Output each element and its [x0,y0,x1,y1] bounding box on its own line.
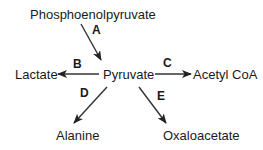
node-oxaloacetate: Oxaloacetate [163,128,240,143]
node-lactate: Lactate [15,67,58,82]
edge-label-a: A [92,23,101,37]
edge-label-c: C [163,56,172,70]
pathway-diagram: Phosphoenolpyruvate Pyruvate Lactate Ace… [0,0,263,150]
arrow-d [74,87,107,123]
edge-label-d: D [80,86,89,100]
node-pyruvate: Pyruvate [103,67,154,82]
edge-label-e: E [157,89,165,103]
diagram-svg: Phosphoenolpyruvate Pyruvate Lactate Ace… [0,0,263,150]
edge-label-b: B [73,57,82,71]
node-acetyl-coa: Acetyl CoA [193,67,258,82]
node-alanine: Alanine [56,128,99,143]
node-phosphoenolpyruvate: Phosphoenolpyruvate [30,7,156,22]
